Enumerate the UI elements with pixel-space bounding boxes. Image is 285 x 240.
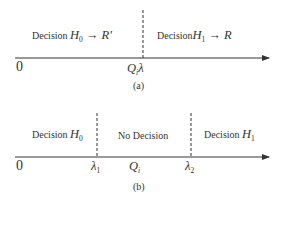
- lambda-subscript: 1: [96, 166, 100, 175]
- hyp-subscript: 0: [79, 134, 83, 143]
- panel-b-middle-region-label: No Decision: [118, 130, 168, 141]
- panel-a-threshold-label: Qiλ: [127, 61, 144, 77]
- hypothesis-symbol: H0: [70, 127, 83, 141]
- q-symbol: Q: [129, 159, 138, 173]
- hyp-letter: H: [193, 28, 202, 42]
- panel-a-caption: (a): [133, 80, 144, 91]
- panel-b-q-label: Qi: [129, 159, 140, 175]
- hyp-letter: H: [70, 127, 79, 141]
- arrow-symbol: →: [83, 28, 102, 42]
- panel-a-right-region-label: DecisionH1 → R: [157, 28, 232, 44]
- lambda-symbol: λ: [138, 61, 143, 75]
- panel-b-left-region-label: Decision H0: [32, 127, 83, 143]
- hyp-letter: H: [242, 127, 251, 141]
- result-symbol: R: [224, 28, 232, 42]
- hypothesis-symbol: H1: [242, 127, 255, 141]
- arrow-symbol: →: [205, 28, 224, 42]
- lambda-subscript: 2: [190, 166, 194, 175]
- label-text: Decision: [157, 30, 193, 41]
- hyp-subscript: 1: [251, 134, 255, 143]
- hyp-letter: H: [70, 28, 79, 42]
- label-text: Decision: [204, 129, 242, 140]
- panel-b-caption: (b): [133, 181, 145, 192]
- panel-a-origin-label: 0: [16, 59, 23, 75]
- panel-b-lambda1-label: λ1: [91, 159, 100, 175]
- panel-b-lambda2-label: λ2: [185, 159, 194, 175]
- hypothesis-symbol: H1: [193, 28, 206, 42]
- panel-a-left-region-label: Decision H0 → R′: [32, 28, 112, 44]
- q-subscript: i: [138, 166, 140, 175]
- result-symbol: R′: [102, 28, 112, 42]
- hypothesis-symbol: H0: [70, 28, 83, 42]
- panel-b-origin-label: 0: [16, 158, 23, 174]
- q-symbol: Q: [127, 61, 136, 75]
- label-text: Decision: [32, 30, 70, 41]
- label-text: Decision: [32, 129, 70, 140]
- panel-b-right-region-label: Decision H1: [204, 127, 255, 143]
